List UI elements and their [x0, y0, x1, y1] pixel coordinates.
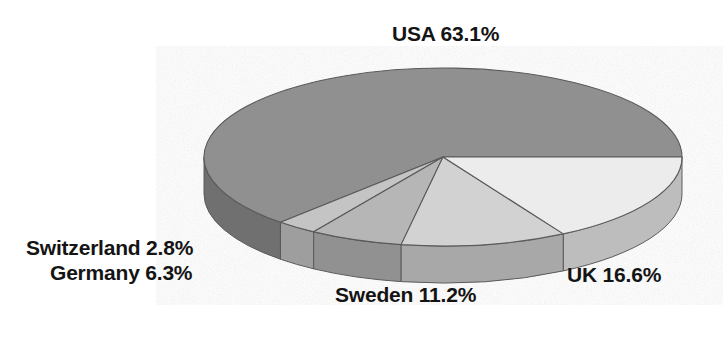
pie-chart-figure: USA 63.1% UK 16.6% Sweden 11.2% Germany …: [0, 0, 723, 341]
pie-top-faces: [204, 68, 682, 246]
slice-label-sweden: Sweden 11.2%: [335, 283, 476, 307]
slice-label-usa: USA 63.1%: [392, 22, 499, 46]
slice-label-switzerland: Switzerland 2.8%: [26, 236, 193, 260]
slice-label-germany: Germany 6.3%: [50, 261, 192, 285]
slice-label-uk: UK 16.6%: [567, 263, 661, 287]
